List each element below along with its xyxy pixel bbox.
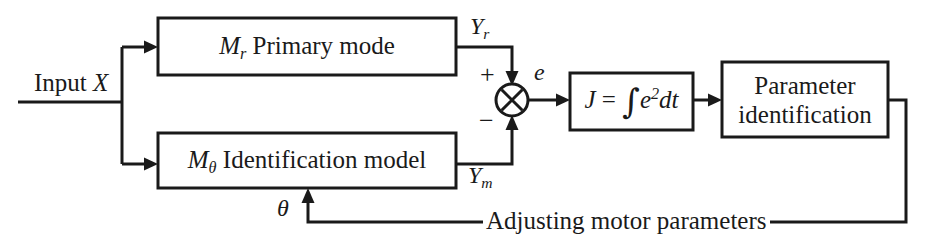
signal-label-y-r: Yr <box>470 14 489 42</box>
summing-junction-minus-sign: − <box>479 108 494 134</box>
feedback-path-label: Adjusting motor parameters <box>483 208 770 233</box>
cost-function-equals: = <box>596 86 623 113</box>
arrowhead-primary-mode-input <box>144 41 158 54</box>
input-label: Input X <box>34 70 108 95</box>
input-label-variable: X <box>93 69 108 96</box>
y-r-subscript: r <box>483 25 489 42</box>
primary-mode-text: Primary mode <box>246 32 395 59</box>
y-r-symbol: Y <box>470 13 483 39</box>
cost-function-lhs: J <box>584 86 595 113</box>
parameter-identification-line-2: identification <box>722 101 888 130</box>
identification-model-symbol: M <box>188 146 209 173</box>
signal-label-theta: θ <box>277 196 289 220</box>
integral-icon: ∫ <box>622 81 640 121</box>
block-cost-function-label: J = ∫e2dt <box>570 86 693 112</box>
arrowhead-theta-into-identification-model <box>302 188 315 203</box>
cost-function-integrand: e <box>640 86 651 113</box>
signal-label-y-m: Ym <box>468 163 493 191</box>
cost-function-exponent: 2 <box>651 85 659 103</box>
block-diagram: Input X Mr Primary mode Mθ Identificatio… <box>0 0 935 251</box>
arrowhead-parameter-identification-input <box>708 94 722 107</box>
primary-mode-symbol: M <box>219 32 240 59</box>
signal-label-error: e <box>534 60 545 84</box>
y-m-subscript: m <box>481 174 492 191</box>
input-label-text: Input <box>34 69 93 96</box>
block-parameter-identification-label: Parameter identification <box>722 72 888 130</box>
block-primary-mode-label: Mr Primary mode <box>158 33 456 62</box>
identification-model-text: Identification model <box>217 146 427 173</box>
cost-function-differential: dt <box>659 86 678 113</box>
block-identification-model-label: Mθ Identification model <box>158 147 456 176</box>
y-m-symbol: Y <box>468 162 481 188</box>
arrowhead-cost-function-input <box>556 94 570 107</box>
identification-model-subscript: θ <box>209 159 217 177</box>
parameter-identification-line-1: Parameter <box>722 72 888 101</box>
arrowhead-identification-model-input <box>144 158 158 171</box>
summing-junction-plus-sign: + <box>480 62 495 88</box>
